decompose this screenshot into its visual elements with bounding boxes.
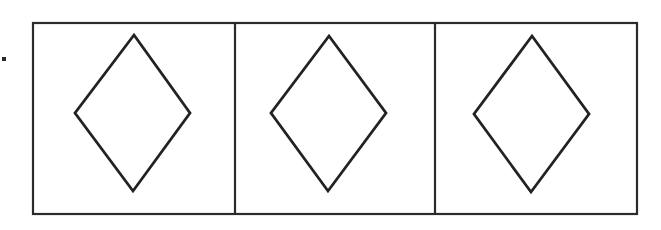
panel-3	[474, 36, 589, 192]
diamond-icon	[474, 36, 589, 192]
outer-frame	[33, 23, 637, 214]
panel-2	[271, 36, 386, 191]
panel-1	[75, 35, 190, 191]
diamond-sequence-figure	[0, 0, 661, 230]
diamond-icon	[75, 35, 190, 191]
diamond-icon	[271, 36, 386, 191]
